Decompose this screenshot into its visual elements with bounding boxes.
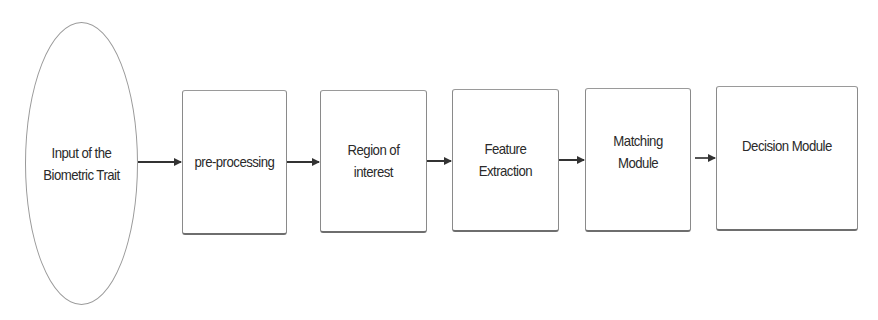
node-region-of-interest: Region of interest xyxy=(320,90,427,233)
node-label: Matching Module xyxy=(613,130,662,174)
node-label: Decision Module xyxy=(742,135,832,157)
node-feature-extraction: Feature Extraction xyxy=(452,89,559,232)
biometric-flow-diagram: Input of the Biometric Trait pre-process… xyxy=(0,0,878,320)
node-label: Feature Extraction xyxy=(479,138,532,182)
node-input-biometric-trait: Input of the Biometric Trait xyxy=(25,22,138,305)
node-matching-module: Matching Module xyxy=(585,88,691,232)
node-decision-module: Decision Module xyxy=(716,86,858,231)
node-label: Input of the Biometric Trait xyxy=(43,142,119,186)
node-label: Region of interest xyxy=(348,139,400,183)
node-label: pre-processing xyxy=(195,151,275,173)
node-preprocessing: pre-processing xyxy=(182,90,287,235)
